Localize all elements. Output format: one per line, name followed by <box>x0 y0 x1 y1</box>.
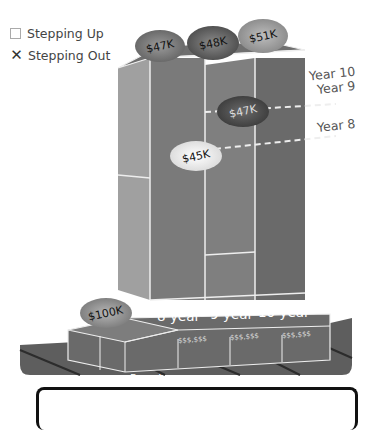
bubble-10yr-top: $51K <box>238 19 288 53</box>
bubble-9yr-top: $48K <box>187 26 239 60</box>
column-label-9yr: 9 year <box>210 306 253 322</box>
bubble-8yr-top: $47K <box>135 30 185 62</box>
legend-label: Stepping Out <box>28 48 110 63</box>
bubble-year9: $47K <box>217 96 269 127</box>
bottom-panel <box>36 387 358 430</box>
legend-label: Stepping Up <box>27 26 104 41</box>
legend: Stepping Up ✕ Stepping Out <box>10 22 110 66</box>
premium-label: Premium <box>130 372 179 385</box>
legend-stepping-out[interactable]: ✕ Stepping Out <box>10 44 110 66</box>
bubble-year8: $45K <box>170 141 222 171</box>
column-label-8yr: 8 year <box>157 308 200 324</box>
x-mark-icon[interactable]: ✕ <box>10 49 23 62</box>
empty-checkbox-icon[interactable] <box>10 28 21 39</box>
legend-stepping-up[interactable]: Stepping Up <box>10 22 110 44</box>
column-label-10yr: 10 year <box>258 304 310 320</box>
bubble-premium: $100K <box>80 298 132 328</box>
